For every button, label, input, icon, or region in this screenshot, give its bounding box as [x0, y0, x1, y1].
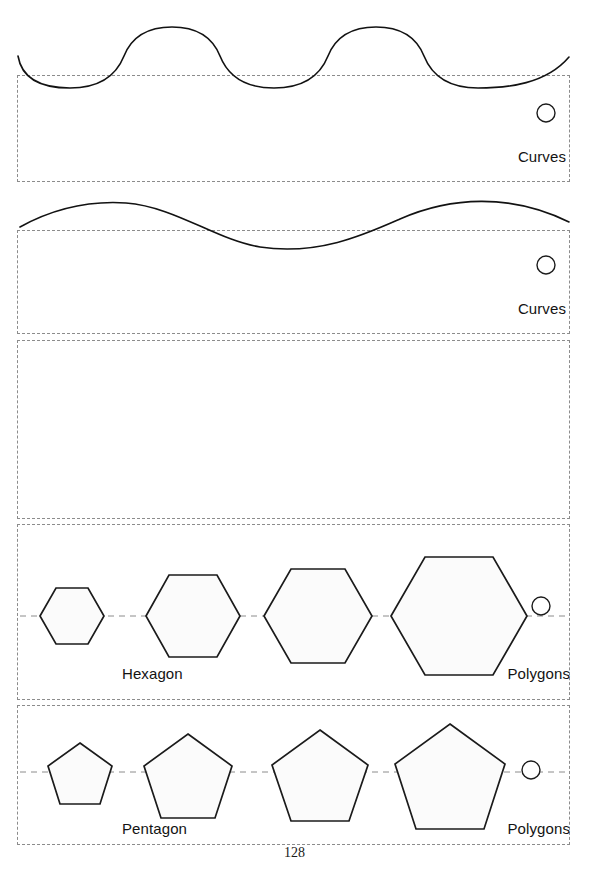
document-page: Curves Curves Hexagon Polygons	[0, 0, 589, 870]
caption-curves-1: Curves	[400, 148, 566, 166]
page-number: 128	[0, 845, 589, 861]
caption-polygons-pentagon: Polygons	[404, 820, 570, 838]
caption-hexagon: Hexagon	[122, 665, 183, 683]
section-frame-empty[interactable]	[17, 340, 570, 519]
caption-curves-2: Curves	[400, 300, 566, 318]
section-frame-curves-sine[interactable]	[17, 230, 570, 334]
caption-pentagon: Pentagon	[122, 820, 187, 838]
caption-polygons-hexagon: Polygons	[404, 665, 570, 683]
